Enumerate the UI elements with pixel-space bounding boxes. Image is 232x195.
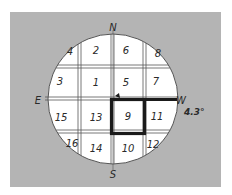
cell-label-11: 11: [151, 111, 164, 122]
cell-label-8: 8: [155, 48, 161, 59]
angle-label: 4.3°: [183, 107, 204, 117]
cell-label-4: 4: [67, 46, 73, 57]
cell-label-14: 14: [90, 143, 103, 154]
cell-label-5: 5: [123, 77, 129, 88]
cell-label-12: 12: [147, 139, 160, 150]
cell-label-6: 6: [123, 45, 129, 56]
compass-north: N: [109, 22, 117, 33]
compass-grid-diagram: N S E W 4.3° 42683157151391116141012: [0, 0, 232, 195]
cell-label-10: 10: [122, 143, 135, 154]
cell-label-13: 13: [90, 112, 103, 123]
cell-label-16: 16: [66, 138, 79, 149]
compass-west: W: [176, 95, 187, 106]
cell-label-15: 15: [55, 112, 68, 123]
compass-east: E: [35, 95, 42, 106]
cell-label-3: 3: [57, 76, 63, 87]
cell-label-2: 2: [93, 45, 99, 56]
cell-label-7: 7: [153, 76, 160, 87]
compass-south: S: [110, 169, 117, 180]
cell-label-1: 1: [93, 77, 99, 88]
cell-label-9: 9: [125, 111, 131, 122]
